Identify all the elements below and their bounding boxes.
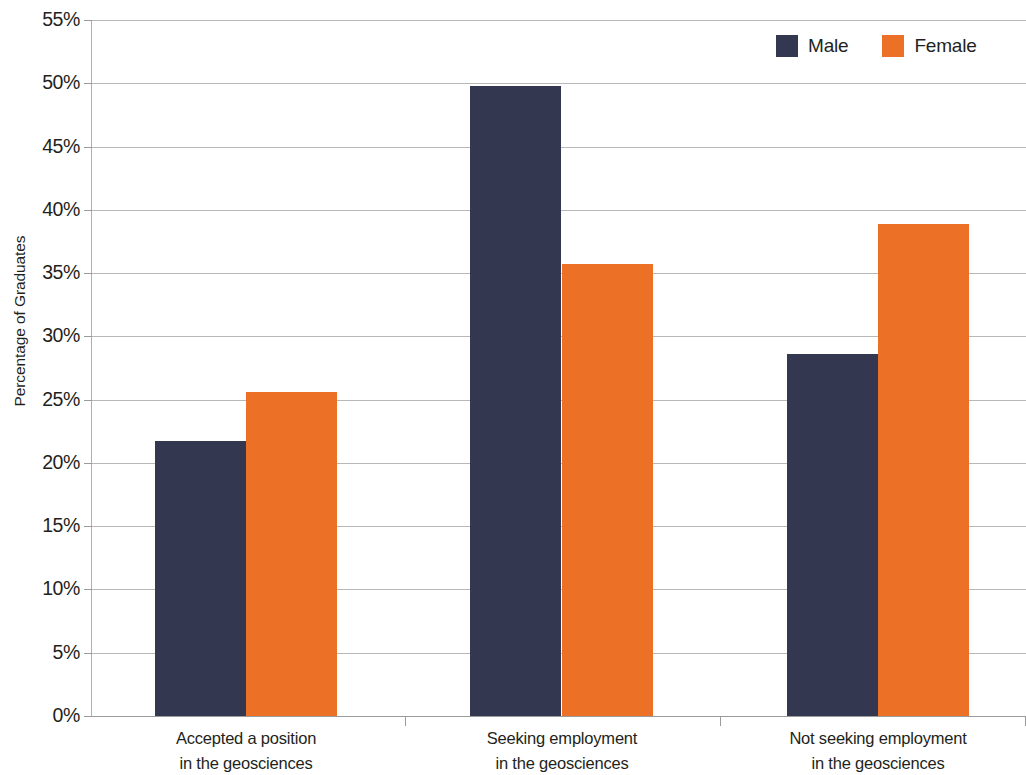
legend-item-female: Female xyxy=(882,35,976,57)
x-axis-category-label-2: Seeking employment in the geosciences xyxy=(387,726,737,775)
bar-female-group-1 xyxy=(246,392,337,716)
x-axis-category-label-1: Accepted a position in the geosciences xyxy=(71,726,421,775)
bar-chart: Percentage of Graduates 0%5%10%15%20%25%… xyxy=(0,0,1026,775)
x-axis-category-label-3: Not seeking employment in the geoscience… xyxy=(703,726,1026,775)
y-tick-label: 15% xyxy=(2,515,80,535)
y-tick-label: 5% xyxy=(2,642,80,662)
legend-label-male: Male xyxy=(808,35,848,57)
bar-female-group-2 xyxy=(562,264,653,716)
chart-legend: Male Female xyxy=(776,33,977,59)
y-tick-label: 10% xyxy=(2,578,80,598)
y-tick-label: 55% xyxy=(2,9,80,29)
legend-label-female: Female xyxy=(914,35,976,57)
bar-male-group-2 xyxy=(470,86,561,716)
y-tick-label: 45% xyxy=(2,136,80,156)
x-axis-tickmark xyxy=(720,717,721,726)
y-tick-label: 20% xyxy=(2,452,80,472)
female-swatch-icon xyxy=(882,35,904,57)
y-tick-label: 0% xyxy=(2,705,80,725)
gridline-0% xyxy=(91,716,1026,717)
male-swatch-icon xyxy=(776,35,798,57)
y-tick-label: 50% xyxy=(2,72,80,92)
bar-female-group-3 xyxy=(878,224,969,716)
bar-male-group-1 xyxy=(155,441,246,716)
gridline-55% xyxy=(91,20,1026,21)
x-axis-tickmark xyxy=(405,717,406,726)
legend-item-male: Male xyxy=(776,35,848,57)
gridline-50% xyxy=(91,83,1026,84)
plot-area xyxy=(91,20,1026,716)
y-axis-title: Percentage of Graduates xyxy=(11,206,33,436)
bar-male-group-3 xyxy=(787,354,878,716)
